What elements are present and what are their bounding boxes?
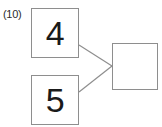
node-box-input-b[interactable]: 5 bbox=[31, 75, 79, 125]
node-box-output[interactable] bbox=[112, 43, 158, 90]
node-value-input-b: 5 bbox=[46, 83, 64, 117]
edge-input-a-to-output bbox=[79, 45, 112, 66]
diagram-canvas: (10) 4 5 bbox=[0, 0, 162, 127]
node-value-input-a: 4 bbox=[46, 16, 64, 50]
edge-input-b-to-output bbox=[79, 66, 112, 92]
figure-label: (10) bbox=[3, 8, 21, 20]
node-box-input-a[interactable]: 4 bbox=[31, 8, 79, 58]
